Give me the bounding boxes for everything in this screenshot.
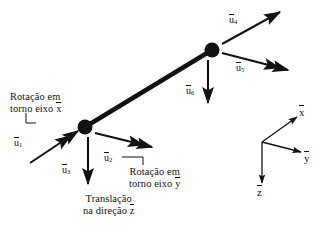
caption-rotation-y-line1: Rotação em: [130, 166, 180, 177]
caption-translation-z-line1: Translação: [86, 193, 132, 204]
axis-label-z: z: [257, 186, 262, 198]
beam-dof-diagram: u1 u2 u3 u4 u5 u6 Rotação em torno eixo …: [0, 0, 326, 231]
u3-symbol: u: [62, 164, 67, 175]
vector-label-u3: u3: [62, 164, 70, 176]
caption-rotation-about-y: Rotação em torno eixo y: [129, 166, 180, 189]
vector-label-u1: u1: [14, 137, 22, 149]
coordinate-axes-triad: [262, 117, 301, 183]
caption-rotation-about-x: Rotação em torno eixo x: [10, 91, 61, 114]
u5-symbol: u: [236, 62, 241, 73]
caption-rotation-x-axis: x: [56, 103, 61, 115]
vector-arrow-u1: [30, 131, 78, 163]
axis-y: [262, 142, 301, 152]
caption-rotation-x-line1: Rotação em: [10, 91, 60, 102]
beam-member: [78, 43, 220, 135]
u1-subscript: 1: [19, 141, 22, 148]
leader-rotation-x: [26, 113, 36, 123]
dof-vector-arrows: [30, 12, 288, 184]
vector-label-u2: u2: [104, 152, 112, 164]
u4-symbol: u: [229, 14, 234, 25]
u1-symbol: u: [14, 137, 19, 148]
caption-rotation-x-line2: torno eixo: [10, 103, 56, 114]
diagram-canvas: [0, 0, 326, 231]
u4-subscript: 4: [234, 18, 237, 25]
axis-x-symbol: x: [299, 106, 305, 118]
u2-subscript: 2: [109, 156, 112, 163]
node-start: [78, 120, 93, 135]
node-end: [205, 43, 220, 58]
caption-translation-along-z: Translação na direção z: [83, 193, 134, 216]
vector-arrow-u5: [222, 53, 288, 70]
caption-translation-z-axis: z: [130, 205, 135, 217]
axis-y-symbol: y: [304, 152, 310, 164]
axis-label-x: x: [299, 106, 305, 118]
axis-label-y: y: [304, 152, 310, 164]
axis-x: [262, 117, 297, 142]
u3-subscript: 3: [67, 168, 70, 175]
caption-rotation-y-line2: torno eixo: [129, 178, 175, 189]
caption-translation-z-line2: na direção: [83, 205, 130, 216]
vector-label-u6: u6: [186, 85, 194, 97]
caption-rotation-y-axis: y: [175, 178, 180, 190]
vector-arrow-u2: [95, 133, 152, 147]
u5-subscript: 5: [241, 66, 244, 73]
u6-symbol: u: [186, 85, 191, 96]
vector-label-u4: u4: [229, 14, 237, 26]
leader-rotation-y: [122, 157, 143, 165]
axis-z-symbol: z: [257, 186, 262, 198]
vector-label-u5: u5: [236, 62, 244, 74]
u2-symbol: u: [104, 152, 109, 163]
u6-subscript: 6: [191, 89, 194, 96]
